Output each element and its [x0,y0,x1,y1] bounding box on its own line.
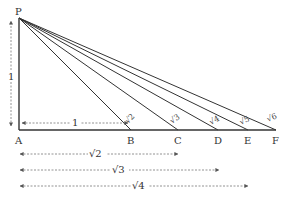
measure-ad-label: √3 [112,164,125,175]
measure-ae-label: √4 [132,180,145,191]
hyp-label-pe: √5 [238,114,251,126]
diagram-canvas: P A B C D E F √2 √3 √4 √5 √6 1 1 √2 √3 √… [0,0,287,199]
label-c: C [174,135,182,146]
label-e: E [244,135,251,146]
measure-ac-label: √2 [89,148,102,159]
spiral-root-diagram: P A B C D E F √2 √3 √4 √5 √6 1 1 √2 √3 √… [0,0,287,199]
vertical-measure-label: 1 [8,71,14,82]
hyp-label-pf: √6 [265,112,278,124]
hypotenuse-pe [19,18,248,130]
label-b: B [127,135,134,146]
hypotenuse-pf [19,18,276,130]
label-d: D [214,135,222,146]
hypotenuse-pd [19,18,218,130]
measure-ab-label: 1 [72,117,78,128]
hypotenuse-pb [19,18,131,130]
label-p: P [15,6,22,17]
label-a: A [14,135,23,146]
label-f: F [272,135,279,146]
hypotenuse-pc [19,18,178,130]
hyp-label-pc: √3 [168,112,182,125]
